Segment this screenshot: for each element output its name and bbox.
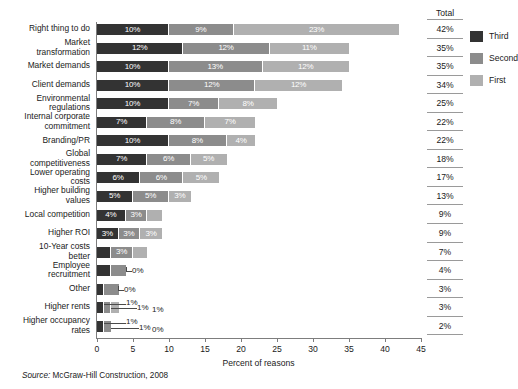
stacked-bar: 4%3%2% bbox=[97, 210, 162, 221]
bar-segment-second: 3% bbox=[119, 228, 141, 239]
x-tick bbox=[277, 338, 278, 342]
stacked-bar: 10%9%23% bbox=[97, 24, 399, 35]
category-label-market-demands: Market demands bbox=[28, 61, 90, 71]
bar-segment-second: 8% bbox=[169, 135, 227, 146]
total-value: 18% bbox=[427, 150, 463, 169]
segment-value-label: 4% bbox=[105, 211, 116, 219]
x-tick-label: 45 bbox=[416, 344, 426, 354]
stacked-bar: 6%6%5% bbox=[97, 172, 219, 183]
category-label-market-transformation: Market transformation bbox=[36, 38, 90, 57]
totals-column: Total 42%35%35%34%25%22%22%18%17%13%9%9%… bbox=[427, 8, 463, 335]
x-tick bbox=[421, 338, 422, 342]
bar-segment-second: 13% bbox=[169, 61, 263, 72]
segment-value-label: 5% bbox=[203, 155, 214, 163]
segment-value-label: 7% bbox=[116, 155, 127, 163]
bar-segment-second: 3% bbox=[126, 210, 148, 221]
segment-value-callout: 1% bbox=[126, 318, 138, 326]
category-label-local-competition: Local competition bbox=[25, 210, 90, 220]
legend-label-third: Third bbox=[489, 31, 509, 41]
bar-segment-first: 7% bbox=[205, 117, 255, 128]
leader-line bbox=[111, 308, 137, 309]
total-value: 25% bbox=[427, 94, 463, 113]
segment-value-label: 5% bbox=[145, 192, 156, 200]
segment-value-callout: 0% bbox=[124, 286, 136, 294]
total-value: 3% bbox=[427, 298, 463, 317]
segment-value-label: 3% bbox=[116, 248, 127, 256]
x-tick bbox=[385, 338, 386, 342]
stacked-bar: 7%8%7% bbox=[97, 117, 255, 128]
segment-value-label: 12% bbox=[218, 44, 233, 52]
bar-segment-third: 4% bbox=[97, 210, 126, 221]
bar-segment-third: 5% bbox=[97, 191, 133, 202]
segment-value-label: 11% bbox=[302, 44, 317, 52]
bar-segment-third: 1% bbox=[97, 284, 104, 295]
x-tick bbox=[313, 338, 314, 342]
segment-value-label: 3% bbox=[123, 230, 134, 238]
total-value: 7% bbox=[427, 243, 463, 262]
bar-segment-third: 3% bbox=[97, 228, 119, 239]
total-value: 9% bbox=[427, 205, 463, 224]
stacked-bar: 10%8%4% bbox=[97, 135, 255, 146]
segment-value-label: 3% bbox=[131, 211, 142, 219]
category-label-internal-corporate-commitment: Internal corporate commitment bbox=[24, 112, 90, 131]
category-label-environmental-regulations: Environmental regulations bbox=[36, 94, 90, 113]
bar-segment-second: 2% bbox=[111, 265, 125, 276]
category-label-employee-recruitment: Employee recruitment bbox=[48, 261, 90, 280]
bar-segment-second: 2% bbox=[104, 284, 118, 295]
total-value: 4% bbox=[427, 261, 463, 280]
total-value: 9% bbox=[427, 224, 463, 243]
segment-value-label: 7% bbox=[225, 118, 236, 126]
stacked-bar: 12%12%11% bbox=[97, 43, 349, 54]
bar-segment-second: 8% bbox=[147, 117, 205, 128]
segment-value-label: 10% bbox=[125, 100, 140, 108]
legend-swatch-third bbox=[470, 31, 483, 42]
total-value: 3% bbox=[427, 280, 463, 299]
segment-value-label: 12% bbox=[291, 81, 306, 89]
category-label-higher-rents: Higher rents bbox=[44, 302, 90, 312]
category-label-other: Other bbox=[69, 284, 90, 294]
legend-item-first: First bbox=[470, 69, 518, 91]
bar-segment-second: 12% bbox=[169, 80, 255, 91]
segment-value-label: 5% bbox=[109, 192, 120, 200]
x-tick-label: 5 bbox=[131, 344, 136, 354]
stacked-bar: 10%12%12% bbox=[97, 80, 342, 91]
segment-value-callout: 0% bbox=[152, 326, 164, 334]
segment-value-label: 8% bbox=[170, 118, 181, 126]
bar-segment-first: 2% bbox=[147, 210, 161, 221]
bar-segment-third: 10% bbox=[97, 135, 169, 146]
total-value: 13% bbox=[427, 187, 463, 206]
x-tick-label: 35 bbox=[344, 344, 354, 354]
bar-segment-first: 11% bbox=[270, 43, 349, 54]
total-value: 35% bbox=[427, 57, 463, 76]
legend-item-second: Second bbox=[470, 47, 518, 69]
bar-segment-first: 4% bbox=[227, 135, 256, 146]
x-tick-label: 10 bbox=[164, 344, 174, 354]
x-axis-line bbox=[96, 338, 421, 339]
segment-value-label: 8% bbox=[192, 137, 203, 145]
bar-segment-first: 23% bbox=[234, 24, 400, 35]
legend-swatch-first bbox=[470, 75, 483, 86]
segment-value-label: 3% bbox=[145, 230, 156, 238]
segment-value-callout: 1% bbox=[152, 306, 164, 314]
bar-segment-second: 6% bbox=[140, 172, 183, 183]
segment-value-label: 9% bbox=[195, 26, 206, 34]
x-tick bbox=[205, 338, 206, 342]
x-tick-label: 20 bbox=[236, 344, 246, 354]
bar-segment-second: 5% bbox=[133, 191, 169, 202]
bar-segment-third: 7% bbox=[97, 117, 147, 128]
bar-segment-third: 7% bbox=[97, 154, 147, 165]
stacked-bar: 1%2% bbox=[97, 284, 119, 295]
x-tick-label: 40 bbox=[380, 344, 390, 354]
x-tick-label: 30 bbox=[308, 344, 318, 354]
segment-value-callout: 1% bbox=[139, 324, 151, 332]
total-value: 22% bbox=[427, 131, 463, 150]
x-tick-label: 15 bbox=[200, 344, 210, 354]
stacked-bar: 10%7%8% bbox=[97, 98, 277, 109]
segment-value-label: 8% bbox=[243, 100, 254, 108]
bar-segment-first: 3% bbox=[169, 191, 191, 202]
segment-value-label: 3% bbox=[174, 192, 185, 200]
x-tick bbox=[241, 338, 242, 342]
segment-value-label: 7% bbox=[188, 100, 199, 108]
stacked-bar: 2%2% bbox=[97, 265, 126, 276]
category-label-lower-operating-costs: Lower operating costs bbox=[30, 168, 90, 187]
